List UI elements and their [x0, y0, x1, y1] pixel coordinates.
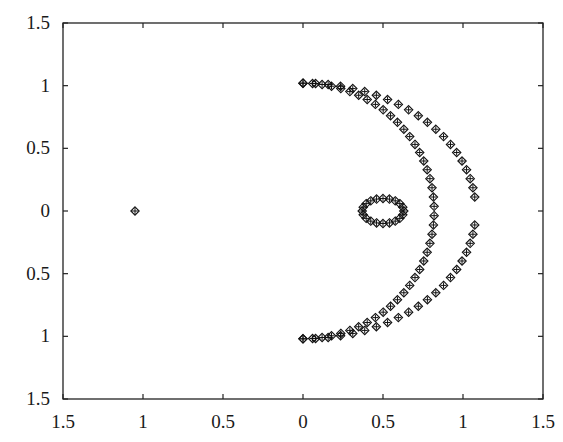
y-tick-label: 1.5: [26, 388, 50, 409]
data-point-marker: [462, 248, 470, 256]
data-point-marker: [379, 308, 387, 316]
data-point-marker: [469, 184, 477, 192]
data-point-marker: [430, 202, 438, 210]
x-tick-label: 1.5: [531, 411, 555, 432]
data-point-marker: [429, 193, 437, 201]
data-point-marker: [363, 318, 371, 326]
data-point-marker: [318, 333, 326, 341]
data-point-marker: [452, 265, 460, 273]
data-point-marker: [386, 112, 394, 120]
data-point-marker: [414, 302, 422, 310]
data-point-marker: [386, 302, 394, 310]
x-tick-label: 0.5: [211, 411, 235, 432]
x-axis-tick-labels: 1.510.500.511.5: [51, 411, 555, 432]
data-point-marker: [426, 239, 434, 247]
data-point-marker: [393, 296, 401, 304]
data-point-marker: [400, 125, 408, 133]
data-point-marker: [432, 125, 440, 133]
data-point-marker: [372, 91, 380, 99]
y-tick-label: 0.5: [26, 263, 50, 284]
y-tick-label: 1: [41, 325, 51, 346]
data-point-marker: [462, 166, 470, 174]
data-point-marker: [394, 100, 402, 108]
data-points: [131, 79, 479, 343]
data-point-marker: [393, 118, 401, 126]
x-tick-label: 1: [138, 411, 148, 432]
data-point-marker: [466, 239, 474, 247]
data-point-marker: [426, 174, 434, 182]
data-point-marker: [429, 221, 437, 229]
data-point-marker: [423, 248, 431, 256]
data-point-marker: [406, 132, 414, 140]
data-point-marker: [423, 296, 431, 304]
data-point-marker: [458, 157, 466, 165]
data-point-marker: [299, 335, 307, 343]
data-point-marker: [428, 230, 436, 238]
data-point-marker: [420, 157, 428, 165]
data-point-marker: [466, 174, 474, 182]
data-point-marker: [394, 313, 402, 321]
data-point-marker: [318, 80, 326, 88]
data-point-marker: [383, 318, 391, 326]
data-point-marker: [383, 95, 391, 103]
data-point-marker: [404, 106, 412, 114]
data-point-marker: [469, 230, 477, 238]
data-point-marker: [371, 100, 379, 108]
y-tick-label: 0.5: [26, 137, 50, 158]
y-axis-tick-labels: 1.510.500.511.5: [26, 12, 50, 409]
data-point-marker: [415, 148, 423, 156]
data-point-marker: [458, 257, 466, 265]
data-point-marker: [430, 211, 438, 219]
data-point-marker: [423, 118, 431, 126]
data-point-marker: [363, 95, 371, 103]
x-tick-label: 1: [458, 411, 468, 432]
data-point-marker: [371, 313, 379, 321]
data-point-marker: [400, 289, 408, 297]
y-tick-label: 0: [41, 200, 51, 221]
y-tick-label: 1.5: [26, 12, 50, 33]
data-point-marker: [411, 140, 419, 148]
data-point-marker: [471, 193, 479, 201]
data-point-marker: [415, 265, 423, 273]
data-point-marker: [439, 281, 447, 289]
data-point-marker: [379, 106, 387, 114]
data-point-marker: [428, 184, 436, 192]
data-point-marker: [414, 112, 422, 120]
x-tick-label: 1.5: [51, 411, 75, 432]
data-point-marker: [404, 308, 412, 316]
x-tick-label: 0.5: [371, 411, 395, 432]
data-point-marker: [131, 207, 139, 215]
data-point-marker: [446, 140, 454, 148]
data-point-marker: [406, 281, 414, 289]
data-point-marker: [439, 132, 447, 140]
data-point-marker: [446, 273, 454, 281]
x-tick-label: 0: [298, 411, 308, 432]
data-point-marker: [372, 323, 380, 331]
data-point-marker: [432, 289, 440, 297]
data-point-marker: [452, 148, 460, 156]
data-point-marker: [299, 79, 307, 87]
scatter-chart: 1.510.500.511.5 1.510.500.511.5: [0, 0, 563, 442]
data-point-marker: [411, 273, 419, 281]
data-point-marker: [471, 221, 479, 229]
y-tick-label: 1: [41, 75, 51, 96]
data-point-marker: [420, 257, 428, 265]
data-point-marker: [423, 166, 431, 174]
